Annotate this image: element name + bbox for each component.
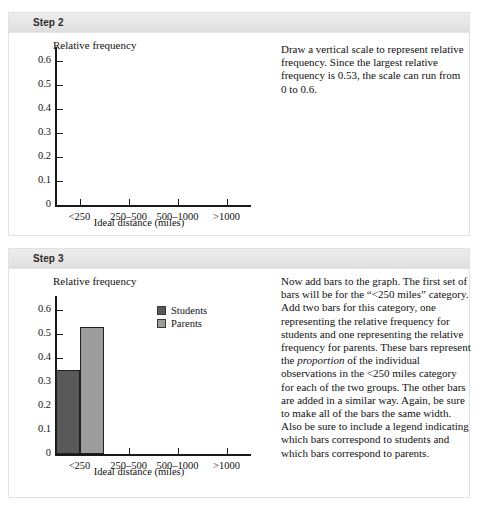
step2-y-tick-label: 0.6 bbox=[21, 54, 51, 65]
step2-y-tick bbox=[57, 85, 63, 86]
step2-x-tick bbox=[80, 199, 81, 205]
step-3-chart: Relative frequency 0.60.50.40.30.20.10<2… bbox=[9, 269, 271, 499]
step3-x-tick bbox=[129, 448, 130, 454]
step3-y-tick-label: 0.1 bbox=[21, 423, 51, 434]
step3-y-tick-label: 0.3 bbox=[21, 375, 51, 386]
step2-y-tick-label: 0.4 bbox=[21, 102, 51, 113]
step2-y-tick bbox=[57, 109, 63, 110]
step2-y-tick-label: 0 bbox=[21, 198, 51, 209]
step3-y-tick bbox=[57, 334, 63, 335]
step2-x-tick bbox=[178, 199, 179, 205]
step-2-header-label: Step 2 bbox=[9, 17, 64, 28]
step-2-body: Relative frequency 0.60.50.40.30.20.10<2… bbox=[9, 33, 469, 235]
step2-y-tick bbox=[57, 61, 63, 62]
step-3-plot-area: 0.60.50.40.30.20.10<250250–500500–1000>1… bbox=[9, 269, 271, 499]
step-2-panel: Step 2 Relative frequency 0.60.50.40.30.… bbox=[8, 12, 470, 236]
bar-parents bbox=[80, 327, 104, 454]
step2-x-tick bbox=[227, 199, 228, 205]
step3-y-tick bbox=[57, 358, 63, 359]
step-3-body: Relative frequency 0.60.50.40.30.20.10<2… bbox=[9, 269, 469, 497]
step-2-plot-area: 0.60.50.40.30.20.10<250250–500500–1000>1… bbox=[9, 33, 271, 237]
step-3-panel: Step 3 Relative frequency 0.60.50.40.30.… bbox=[8, 248, 470, 498]
step-2-header: Step 2 bbox=[9, 13, 469, 33]
step3-x-tick bbox=[227, 448, 228, 454]
step2-y-tick bbox=[57, 133, 63, 134]
step-3-header: Step 3 bbox=[9, 249, 469, 269]
step-2-x-axis-label: Ideal distance (miles) bbox=[49, 217, 229, 228]
step2-x-tick bbox=[129, 199, 130, 205]
step2-y-tick-label: 0.5 bbox=[21, 78, 51, 89]
legend-label: Parents bbox=[171, 318, 202, 329]
bar-students bbox=[56, 370, 80, 454]
legend-item-students: Students bbox=[157, 305, 207, 316]
legend-swatch-icon bbox=[157, 319, 166, 328]
step2-x-axis bbox=[55, 205, 251, 207]
legend-label: Students bbox=[171, 305, 207, 316]
step-3-legend: StudentsParents bbox=[157, 305, 207, 331]
step2-y-tick-label: 0.3 bbox=[21, 126, 51, 137]
step3-y-tick-label: 0.2 bbox=[21, 399, 51, 410]
step3-x-axis bbox=[55, 454, 251, 456]
step-3-header-label: Step 3 bbox=[9, 253, 64, 264]
step3-y-tick-label: 0 bbox=[21, 447, 51, 458]
step-2-chart: Relative frequency 0.60.50.40.30.20.10<2… bbox=[9, 33, 271, 237]
step3-y-tick-label: 0.4 bbox=[21, 351, 51, 362]
step3-y-tick bbox=[57, 310, 63, 311]
step2-y-tick-label: 0.2 bbox=[21, 150, 51, 161]
step2-y-tick-label: 0.1 bbox=[21, 174, 51, 185]
step3-x-tick bbox=[178, 448, 179, 454]
step-3-x-axis-label: Ideal distance (miles) bbox=[49, 466, 229, 477]
step-2-instruction-text: Draw a vertical scale to represent relat… bbox=[281, 43, 467, 96]
step2-y-tick bbox=[57, 157, 63, 158]
step2-y-tick bbox=[57, 181, 63, 182]
step3-y-tick-label: 0.5 bbox=[21, 327, 51, 338]
legend-swatch-icon bbox=[157, 306, 166, 315]
step-3-instruction-text: Now add bars to the graph. The first set… bbox=[281, 275, 471, 460]
page-root: Step 2 Relative frequency 0.60.50.40.30.… bbox=[0, 0, 486, 506]
legend-item-parents: Parents bbox=[157, 318, 207, 329]
step3-y-tick-label: 0.6 bbox=[21, 303, 51, 314]
